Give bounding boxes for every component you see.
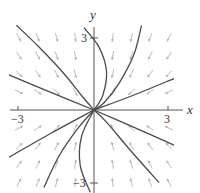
field-arrow-icon	[148, 52, 152, 60]
field-arrow-icon	[166, 71, 172, 77]
field-arrow-icon	[16, 143, 22, 149]
trajectories	[9, 25, 174, 192]
phase-portrait-plot	[0, 0, 200, 193]
field-arrow-icon	[148, 70, 153, 77]
field-arrow-icon	[36, 33, 40, 41]
field-arrow-icon	[17, 179, 21, 187]
x-axis-label: x	[187, 103, 193, 116]
field-arrow-icon	[148, 178, 152, 186]
field-arrow-icon	[167, 52, 172, 59]
field-arrow-icon	[129, 160, 133, 169]
field-arrow-icon	[16, 71, 22, 77]
field-arrow-icon	[130, 33, 133, 42]
field-arrow-icon	[74, 69, 77, 78]
x-tick-label-neg3: −3	[11, 113, 24, 125]
field-arrow-icon	[111, 33, 114, 42]
y-axis-label: y	[90, 8, 96, 21]
field-arrow-icon	[55, 51, 59, 60]
field-arrow-icon	[54, 142, 58, 150]
x-tick-label-pos3: 3	[164, 113, 170, 125]
field-arrow-icon	[148, 160, 152, 168]
field-arrow-icon	[148, 143, 153, 150]
field-arrow-icon	[148, 33, 152, 41]
field-arrow-icon	[36, 160, 40, 168]
trajectory-curve	[84, 28, 107, 110]
field-arrow-icon	[167, 161, 172, 168]
field-arrow-icon	[74, 33, 77, 42]
trajectory-curve	[94, 110, 159, 183]
field-arrow-icon	[74, 142, 77, 151]
field-arrow-icon	[111, 178, 114, 187]
field-arrow-icon	[35, 70, 40, 77]
field-arrow-icon	[165, 126, 173, 130]
field-arrow-icon	[15, 126, 23, 130]
field-arrow-icon	[34, 89, 41, 94]
field-arrow-icon	[165, 90, 173, 94]
field-arrow-icon	[111, 142, 114, 151]
field-arrow-icon	[17, 161, 22, 168]
field-arrow-icon	[55, 33, 58, 42]
field-arrow-icon	[17, 52, 22, 59]
field-arrow-icon	[55, 178, 58, 187]
field-arrow-icon	[111, 51, 114, 60]
field-arrow-icon	[129, 70, 133, 78]
field-arrow-icon	[167, 179, 171, 187]
field-arrow-icon	[34, 126, 41, 131]
field-arrow-icon	[167, 33, 171, 41]
field-arrow-icon	[36, 178, 40, 186]
field-arrow-icon	[54, 70, 58, 78]
field-arrow-icon	[17, 33, 21, 41]
field-arrow-icon	[111, 160, 114, 169]
field-arrow-icon	[15, 90, 23, 94]
field-arrow-icon	[35, 143, 40, 150]
y-tick-label-pos3: 3	[81, 32, 87, 44]
trajectory-curve	[44, 110, 94, 187]
field-arrow-icon	[147, 126, 154, 131]
field-arrow-icon	[128, 89, 134, 95]
trajectory-curve	[94, 110, 174, 145]
field-arrow-icon	[74, 51, 77, 60]
field-arrow-icon	[36, 52, 40, 60]
field-arrow-icon	[130, 178, 133, 187]
trajectory-curve	[94, 25, 142, 110]
field-arrow-icon	[74, 160, 77, 169]
y-tick-label-neg3: −3	[73, 177, 86, 189]
field-arrow-icon	[111, 69, 114, 78]
